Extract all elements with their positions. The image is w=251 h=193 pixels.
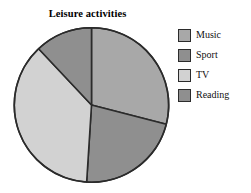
pie-chart-plot-area bbox=[12, 25, 172, 187]
legend-item-sport[interactable]: Sport bbox=[178, 45, 250, 65]
legend-label-tv: TV bbox=[196, 70, 209, 80]
legend-label-sport: Sport bbox=[196, 50, 218, 60]
legend-item-reading[interactable]: Reading bbox=[178, 85, 250, 105]
legend-swatch-music bbox=[178, 29, 191, 42]
chart-title: Leisure activities bbox=[0, 8, 175, 19]
legend-item-tv[interactable]: TV bbox=[178, 65, 250, 85]
legend-label-music: Music bbox=[196, 30, 221, 40]
legend-swatch-reading bbox=[178, 89, 191, 102]
legend-label-reading: Reading bbox=[196, 90, 229, 100]
legend-swatch-sport bbox=[178, 49, 191, 62]
pie-chart-figure: Leisure activities Music Sport TV Readin… bbox=[0, 0, 251, 193]
chart-legend: Music Sport TV Reading bbox=[178, 25, 250, 105]
legend-item-music[interactable]: Music bbox=[178, 25, 250, 45]
legend-swatch-tv bbox=[178, 69, 191, 82]
pie-chart-svg bbox=[12, 25, 172, 187]
